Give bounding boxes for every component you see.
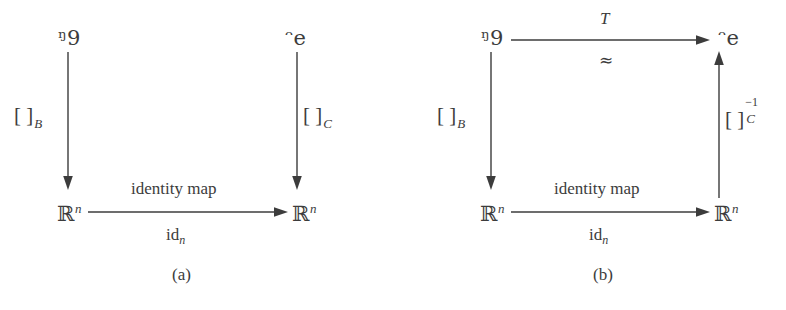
id-base-a: id (166, 225, 179, 244)
object-node-V-a: ᵑ9 (58, 28, 81, 49)
Rn-base-bottom-right-a: ℝ (292, 202, 310, 226)
diagram-panel-b: ᵑ9 ᵔe T ≈ [ ]B [ ] −1 C ℝn ℝn identity m… (393, 0, 786, 310)
bracket-subscript-B-b: B (457, 116, 465, 131)
arrow-label-coordinate-map-B-a: [ ]B (14, 105, 41, 126)
arrow-label-T-b: T (600, 10, 609, 27)
arrow-head-top-horizontal-b (696, 35, 710, 45)
figure-commutative-diagrams: ᵑ9 ᵔe [ ]B [ ]C ℝn ℝn identity map idn (… (0, 0, 786, 310)
id-subscript-n-b: n (602, 233, 608, 247)
id-subscript-n-a: n (179, 233, 185, 247)
id-base-b: id (589, 225, 602, 244)
Rn-exponent-bottom-left-b: n (498, 201, 505, 216)
Rn-exponent-bottom-left-a: n (75, 201, 82, 216)
Rn-base-bottom-right-b: ℝ (714, 202, 732, 226)
arrow-label-approx-b: ≈ (599, 52, 613, 69)
object-node-Rn-bottom-left-a: ℝn (57, 202, 81, 225)
Rn-exponent-bottom-right-b: n (732, 201, 739, 216)
bracket-subscript-B-a: B (34, 116, 42, 131)
arrow-label-coordinate-map-B-b: [ ]B (437, 105, 464, 126)
panel-caption-a: (a) (172, 266, 191, 283)
bracket-open-a-left: [ ] (14, 103, 33, 127)
object-node-V-b: ᵑ9 (481, 28, 504, 49)
arrow-head-right-vertical-b (714, 51, 724, 65)
Rn-base-bottom-left-b: ℝ (480, 202, 498, 226)
bracket-superscript-inverse-b: −1 (745, 96, 758, 108)
arrow-label-identity-map-b: identity map (554, 180, 639, 197)
arrow-label-identity-map-a: identity map (131, 180, 216, 197)
object-node-W-b: ᵔe (718, 28, 740, 49)
bracket-open-a-right: [ ] (303, 103, 322, 127)
bracket-open-b-right: [ ] (725, 107, 744, 131)
arrow-head-left-vertical-a (63, 176, 73, 190)
bracket-subscript-C-b: C (746, 112, 755, 125)
panel-caption-b: (b) (593, 266, 613, 283)
arrow-label-coordinate-map-C-a: [ ]C (303, 105, 331, 126)
arrow-head-left-vertical-b (486, 176, 496, 190)
object-node-W-a: ᵔe (285, 28, 307, 49)
arrow-label-id-n-a: idn (166, 226, 185, 243)
object-node-Rn-bottom-right-a: ℝn (292, 202, 316, 225)
Rn-exponent-bottom-right-a: n (310, 201, 317, 216)
Rn-base-bottom-left-a: ℝ (57, 202, 75, 226)
arrow-head-right-vertical-a (292, 176, 302, 190)
object-node-Rn-bottom-left-b: ℝn (480, 202, 504, 225)
bracket-subscript-C-a: C (323, 116, 332, 131)
arrow-label-id-n-b: idn (589, 226, 608, 243)
bracket-open-b-left: [ ] (437, 103, 456, 127)
object-node-Rn-bottom-right-b: ℝn (714, 202, 738, 225)
arrow-head-bottom-horizontal-a (274, 207, 288, 217)
diagram-panel-a: ᵑ9 ᵔe [ ]B [ ]C ℝn ℝn identity map idn (… (0, 0, 393, 310)
arrow-label-coordinate-map-C-inverse-b: [ ] −1 C (725, 105, 758, 130)
arrow-head-bottom-horizontal-b (696, 207, 710, 217)
bracket-sub-sup-group-b: −1 C (744, 105, 758, 126)
